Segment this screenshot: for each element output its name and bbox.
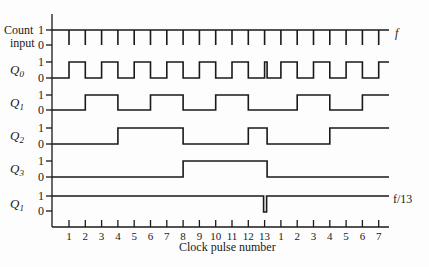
x-tick-label: 1: [278, 230, 284, 242]
waveform-count-input: [52, 30, 389, 45]
level-label: 1: [38, 189, 44, 203]
x-axis-label: Clock pulse number: [179, 240, 276, 254]
waveform-q2: [52, 128, 389, 144]
count-label-line2: input: [10, 36, 35, 50]
x-tick-label: 2: [83, 230, 89, 242]
signal-label-out: Q1: [10, 196, 24, 213]
waveform-q1: [52, 95, 389, 110]
x-tick-label: 4: [115, 230, 121, 242]
level-label: 0: [38, 38, 44, 52]
signal-label-q0: Q0: [10, 62, 24, 79]
level-label: 1: [38, 154, 44, 168]
level-label: 0: [38, 71, 44, 85]
level-label: 0: [38, 103, 44, 117]
x-tick-label: 6: [360, 230, 366, 242]
signal-labels: CountinputQ0Q1Q2Q3Q1: [4, 23, 35, 213]
x-tick-label: 2: [294, 230, 300, 242]
waveform-output-f13: [52, 196, 389, 212]
timing-diagram-canvas: 101010101010 CountinputQ0Q1Q2Q3Q1 123456…: [0, 0, 429, 267]
level-label: 0: [38, 170, 44, 184]
signal-label-q2: Q2: [10, 128, 24, 145]
count-label: Count: [4, 23, 34, 37]
waveform-q3: [52, 161, 389, 177]
level-label: 0: [38, 204, 44, 218]
signal-label-q3: Q3: [10, 161, 24, 178]
x-tick-label: 6: [148, 230, 154, 242]
level-label: 1: [38, 88, 44, 102]
waveform-q0: [52, 62, 389, 78]
x-tick-label: 5: [343, 230, 349, 242]
level-label: 1: [38, 23, 44, 37]
level-labels: 101010101010: [38, 23, 52, 218]
x-tick-label: 3: [311, 230, 317, 242]
level-label: 0: [38, 137, 44, 151]
x-tick-label: 4: [327, 230, 333, 242]
output-right-label: f/13: [393, 192, 412, 206]
waveforms: [52, 30, 389, 212]
level-label: 1: [38, 121, 44, 135]
x-tick-label: 7: [164, 230, 170, 242]
signal-label-q1: Q1: [10, 95, 24, 112]
x-tick-label: 7: [376, 230, 382, 242]
x-axis-ticks: 123456789101112131234567: [66, 220, 382, 242]
x-tick-label: 5: [131, 230, 137, 242]
level-label: 1: [38, 55, 44, 69]
timing-diagram: 101010101010 CountinputQ0Q1Q2Q3Q1 123456…: [0, 0, 429, 267]
x-tick-label: 1: [66, 230, 72, 242]
x-tick-label: 3: [99, 230, 105, 242]
count-right-label: f: [395, 26, 400, 40]
